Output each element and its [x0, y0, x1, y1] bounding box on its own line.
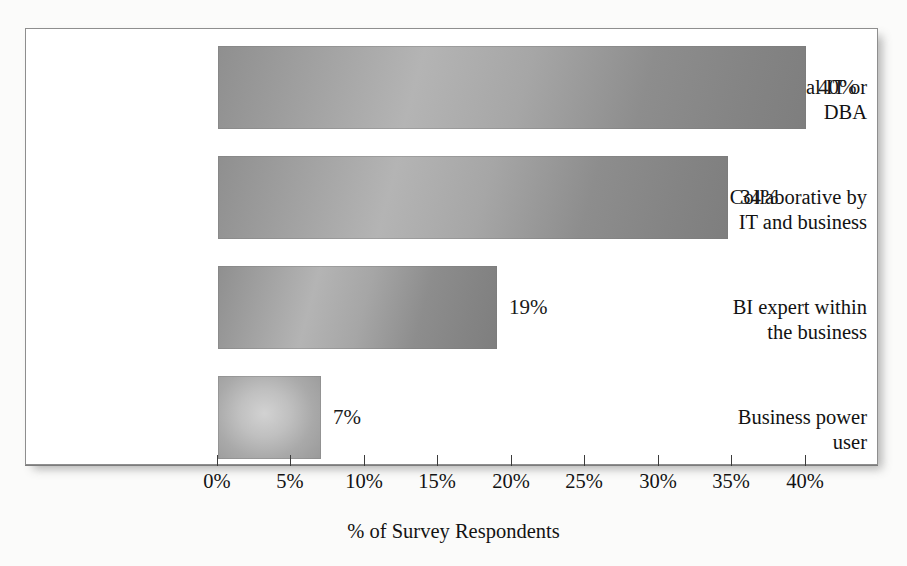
chart-plot-frame: Central IT or DBA Collaborative by IT an…	[25, 28, 878, 465]
bar-value-collaborative: 34%	[740, 156, 779, 239]
bar-central-it[interactable]	[218, 46, 806, 129]
bar-bi-expert[interactable]	[218, 266, 497, 349]
x-axis-title: % of Survey Respondents	[0, 520, 907, 543]
x-axis-tick	[805, 455, 806, 466]
x-axis-tick-label-5: 5%	[250, 470, 330, 493]
bar-collaborative[interactable]	[218, 156, 728, 239]
x-axis-tick-label-20: 20%	[471, 470, 551, 493]
x-axis-tick-label-0: 0%	[177, 470, 257, 493]
x-axis-tick-label-30: 30%	[618, 470, 698, 493]
bar-value-bi-expert: 19%	[509, 266, 548, 349]
x-axis-tick	[290, 455, 291, 466]
x-axis-tick	[658, 455, 659, 466]
bar-value-central-it: 40%	[818, 46, 857, 129]
x-axis-tick	[584, 455, 585, 466]
x-axis-tick-label-25: 25%	[544, 470, 624, 493]
x-axis-tick	[731, 455, 732, 466]
x-axis-tick-label-15: 15%	[397, 470, 477, 493]
x-axis-tick-label-10: 10%	[324, 470, 404, 493]
x-axis-tick-label-40: 40%	[765, 470, 845, 493]
x-axis-tick	[217, 455, 218, 466]
x-axis-line	[25, 465, 878, 466]
plot-area: 40% 34% 19% 7%	[218, 29, 877, 464]
x-axis-tick	[364, 455, 365, 466]
bar-value-business-power-user: 7%	[333, 376, 361, 459]
x-axis-tick	[511, 455, 512, 466]
bar-business-power-user[interactable]	[218, 376, 321, 459]
page-background: Central IT or DBA Collaborative by IT an…	[0, 0, 907, 566]
x-axis-tick	[437, 455, 438, 466]
x-axis-tick-label-35: 35%	[691, 470, 771, 493]
